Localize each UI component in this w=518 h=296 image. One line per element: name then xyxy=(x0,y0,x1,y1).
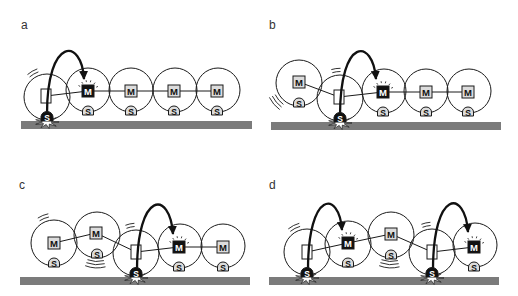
sensor-label: S xyxy=(423,108,429,118)
motor-label: M xyxy=(84,86,92,97)
diagram-canvas: aMMMMSSSSSbMMMMSSSSScMMMMSSSSSdMMMSSSSS xyxy=(0,0,518,296)
panel-label: b xyxy=(269,18,276,32)
activation-spark-icon xyxy=(90,80,91,82)
figure-background xyxy=(0,0,518,296)
idle-motor-module: M xyxy=(217,241,229,253)
motor-label: M xyxy=(295,77,303,88)
activation-spark-icon xyxy=(350,232,351,234)
motor-label: M xyxy=(175,242,183,253)
grounded-sensor-foot: S xyxy=(426,268,438,279)
sensor-label: S xyxy=(44,113,50,123)
sensor-foot: S xyxy=(421,107,432,118)
motor-label: M xyxy=(464,87,472,98)
motor-label: M xyxy=(422,87,430,98)
sensor-foot: S xyxy=(463,107,474,118)
panel-label: d xyxy=(269,178,276,192)
sensor-foot: S xyxy=(386,250,397,261)
motor-label: M xyxy=(219,242,227,253)
grounded-sensor-foot: S xyxy=(301,268,313,279)
sensor-label: S xyxy=(345,259,351,269)
sensor-label: S xyxy=(51,259,57,269)
anchored-module-frame xyxy=(41,89,51,103)
sensor-foot: S xyxy=(212,106,223,117)
anchored-module-frame xyxy=(131,245,141,259)
sensor-foot: S xyxy=(174,262,185,273)
sensor-label: S xyxy=(380,108,386,118)
idle-motor-module: M xyxy=(90,227,102,239)
sensor-label: S xyxy=(429,269,435,279)
motor-label: M xyxy=(170,86,178,97)
motor-label: M xyxy=(470,242,478,253)
idle-motor-module: M xyxy=(211,85,223,97)
sensor-label: S xyxy=(471,263,477,273)
anchored-module-frame xyxy=(302,245,312,259)
motor-label: M xyxy=(92,228,100,239)
sensor-label: S xyxy=(220,263,226,273)
sensor-label: S xyxy=(171,107,177,117)
sensor-label: S xyxy=(465,108,471,118)
idle-motor-module: M xyxy=(462,86,474,98)
idle-motor-module: M xyxy=(125,85,137,97)
motor-label: M xyxy=(344,238,352,249)
sensor-label: S xyxy=(304,269,310,279)
grounded-sensor-foot: S xyxy=(130,268,142,279)
motor-label: M xyxy=(387,229,395,240)
sensor-foot: S xyxy=(294,98,305,109)
panel-label: c xyxy=(19,178,25,192)
panel-label: a xyxy=(21,18,28,32)
motor-label: M xyxy=(127,86,135,97)
sensor-foot: S xyxy=(469,262,480,273)
sensor-label: S xyxy=(128,107,134,117)
sensor-foot: S xyxy=(343,258,354,269)
sensor-foot: S xyxy=(92,249,103,260)
anchored-module-frame xyxy=(334,90,344,104)
activation-spark-icon xyxy=(181,236,182,238)
sensor-label: S xyxy=(296,99,302,109)
sensor-foot: S xyxy=(83,106,94,117)
activation-spark-icon xyxy=(385,81,386,83)
sensor-foot: S xyxy=(49,258,60,269)
idle-motor-module: M xyxy=(293,76,305,88)
motor-label: M xyxy=(213,86,221,97)
sensor-foot: S xyxy=(378,107,389,118)
motor-label: M xyxy=(50,238,58,249)
sensor-foot: S xyxy=(218,262,229,273)
idle-motor-module: M xyxy=(420,86,432,98)
anchored-module-frame xyxy=(427,245,437,259)
sensor-label: S xyxy=(337,114,343,124)
grounded-sensor-foot: S xyxy=(334,113,346,124)
activation-spark-icon xyxy=(476,236,477,238)
sensor-label: S xyxy=(133,269,139,279)
sensor-label: S xyxy=(388,251,394,261)
locomotion-diagram-figure: aMMMMSSSSSbMMMMSSSSScMMMMSSSSSdMMMSSSSS xyxy=(0,0,518,296)
sensor-label: S xyxy=(214,107,220,117)
motor-label: M xyxy=(379,87,387,98)
sensor-label: S xyxy=(94,250,100,260)
idle-motor-module: M xyxy=(385,228,397,240)
ground-surface xyxy=(271,122,501,130)
idle-motor-module: M xyxy=(48,237,60,249)
sensor-label: S xyxy=(85,107,91,117)
idle-motor-module: M xyxy=(168,85,180,97)
sensor-label: S xyxy=(176,263,182,273)
grounded-sensor-foot: S xyxy=(41,112,53,123)
sensor-foot: S xyxy=(169,106,180,117)
sensor-foot: S xyxy=(126,106,137,117)
